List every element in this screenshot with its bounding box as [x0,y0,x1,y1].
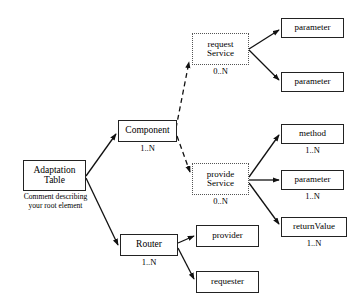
edge-component-provide-service [177,136,190,172]
multiplicity-request-service: 0..N [192,66,249,76]
node-label-parameter-request-1: parameter [282,23,343,32]
node-provide-service[interactable]: provideService [192,163,249,195]
node-parameter-request-2[interactable]: parameter [281,72,344,92]
node-adaptation-table[interactable]: AdaptationTable [23,160,86,191]
node-label-provider: provider [197,231,258,240]
node-label-adaptation-table: AdaptationTable [24,166,85,186]
edge-router-requester [178,248,194,279]
node-parameter-request-1[interactable]: parameter [281,18,344,38]
diagram-canvas: AdaptationTable Comment describing your … [0,0,354,308]
node-label-return-value: returnValue [282,222,346,231]
node-component[interactable]: Component [118,120,177,142]
edge-request-parameter-1 [249,30,279,49]
edge-provide-method [249,135,279,177]
multiplicity-method: 1..N [281,145,344,155]
root-comment: Comment describing your root element [8,193,103,210]
node-label-requester: requester [197,277,258,286]
node-label-router: Router [121,240,177,250]
multiplicity-parameter-provide: 1..N [281,191,344,201]
edge-provide-return-value [249,183,279,224]
edge-component-request-service [176,62,189,128]
multiplicity-component: 1..N [118,143,177,153]
node-label-method: method [282,129,343,138]
multiplicity-return-value: 1..N [281,238,347,248]
node-provider[interactable]: provider [196,225,259,247]
multiplicity-router: 1..N [120,257,178,267]
node-label-provide-service: provideService [193,170,248,189]
node-return-value[interactable]: returnValue [281,217,347,237]
edge-request-parameter-2 [249,50,279,80]
node-label-parameter-provide: parameter [282,175,343,184]
node-parameter-provide[interactable]: parameter [281,170,344,190]
node-router[interactable]: Router [120,234,178,256]
edge-router-provider [178,236,194,243]
node-label-parameter-request-2: parameter [282,77,343,86]
multiplicity-provide-service: 0..N [192,196,249,206]
node-method[interactable]: method [281,124,344,144]
edge-adaptation-router [86,178,118,245]
node-label-request-service: requestService [193,40,248,59]
node-requester[interactable]: requester [196,271,259,293]
node-request-service[interactable]: requestService [192,33,249,65]
node-label-component: Component [119,126,176,136]
edge-adaptation-component [86,134,116,176]
